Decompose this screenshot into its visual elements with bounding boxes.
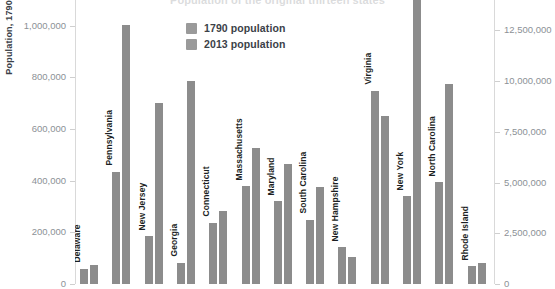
legend-item-2013[interactable]: 2013 population	[186, 38, 285, 50]
bar-group: New Jersey	[145, 0, 165, 284]
tick-mark	[495, 183, 500, 184]
bar-group: New Hampshire	[338, 0, 358, 284]
category-label: New Jersey	[137, 183, 146, 231]
bar-group: Delaware	[80, 0, 100, 284]
tick-mark	[495, 284, 500, 285]
chart-legend: 1790 population 2013 population	[186, 22, 285, 50]
tick-mark	[495, 81, 500, 82]
bar-1790[interactable]	[177, 263, 185, 284]
bar-1790[interactable]	[145, 236, 153, 284]
right-tick-label: 0	[504, 279, 509, 289]
right-tick-label: 12,500,000	[504, 25, 552, 35]
bar-2013[interactable]	[122, 25, 130, 284]
bar-1790[interactable]	[80, 269, 88, 284]
category-label: Pennsylvania	[105, 110, 114, 166]
legend-item-1790[interactable]: 1790 population	[186, 22, 285, 34]
bar-1790[interactable]	[209, 223, 217, 284]
bar-1790[interactable]	[338, 247, 346, 284]
bar-group: Virginia	[371, 0, 391, 284]
category-label: Virginia	[363, 53, 372, 85]
bar-1790[interactable]	[435, 182, 443, 284]
bar-2013[interactable]	[348, 257, 356, 284]
bar-1790[interactable]	[274, 201, 282, 284]
bar-1790[interactable]	[403, 196, 411, 284]
category-label: Rhode Island	[460, 206, 469, 261]
bar-2013[interactable]	[284, 164, 292, 284]
category-label: Maryland	[266, 157, 275, 195]
bar-1790[interactable]	[242, 186, 250, 284]
bar-2013[interactable]	[316, 187, 324, 284]
category-label: Massachusetts	[234, 118, 243, 180]
legend-label-1790: 1790 population	[204, 22, 285, 34]
tick-mark	[495, 233, 500, 234]
bar-2013[interactable]	[90, 265, 98, 284]
tick-mark	[495, 30, 500, 31]
left-tick-label: 200,000	[32, 227, 66, 237]
bar-1790[interactable]	[468, 266, 476, 284]
bar-2013[interactable]	[445, 84, 453, 284]
left-tick-label: 400,000	[32, 176, 66, 186]
left-axis-title: Population, 1790	[4, 0, 14, 75]
right-tick-label: 7,500,000	[504, 127, 546, 137]
bar-group: New York	[403, 0, 423, 284]
bar-2013[interactable]	[413, 0, 421, 284]
category-label: Delaware	[75, 225, 81, 263]
tick-mark	[70, 284, 75, 285]
bar-2013[interactable]	[252, 148, 260, 284]
legend-swatch-1790-icon	[186, 23, 197, 34]
bar-group: Rhode Island	[468, 0, 488, 284]
bar-2013[interactable]	[381, 116, 389, 284]
category-label: New York	[396, 151, 405, 190]
tick-mark	[495, 132, 500, 133]
legend-swatch-2013-icon	[186, 39, 197, 50]
bar-2013[interactable]	[219, 211, 227, 284]
left-tick-label: 600,000	[32, 124, 66, 134]
category-label: Connecticut	[202, 166, 211, 216]
bar-2013[interactable]	[187, 81, 195, 284]
bar-group: North Carolina	[435, 0, 455, 284]
category-label: New Hampshire	[331, 176, 340, 241]
category-label: South Carolina	[299, 152, 308, 214]
category-label: Georgia	[169, 224, 178, 257]
legend-label-2013: 2013 population	[204, 38, 285, 50]
bar-2013[interactable]	[155, 103, 163, 284]
left-tick-label: 0	[61, 279, 66, 289]
right-tick-label: 5,000,000	[504, 178, 546, 188]
category-label: North Carolina	[428, 116, 437, 176]
bar-1790[interactable]	[306, 220, 314, 284]
bar-group: South Carolina	[306, 0, 326, 284]
bar-group: Pennsylvania	[112, 0, 132, 284]
left-tick-label: 800,000	[32, 72, 66, 82]
right-tick-label: 10,000,000	[504, 76, 552, 86]
left-tick-label: 1,000,000	[24, 21, 66, 31]
bar-1790[interactable]	[371, 91, 379, 284]
right-tick-label: 2,500,000	[504, 228, 546, 238]
bar-1790[interactable]	[112, 172, 120, 284]
bar-2013[interactable]	[478, 263, 486, 284]
